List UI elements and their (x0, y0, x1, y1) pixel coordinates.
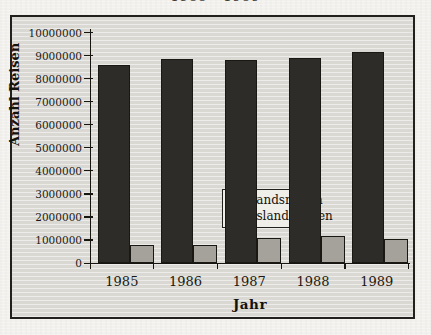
bar-inlandsreisen-1987 (225, 60, 257, 263)
y-tick-label: 2000000 (24, 212, 82, 222)
y-tick-label: 6000000 (24, 120, 82, 130)
x-category-label: 1986 (154, 274, 218, 289)
bar-auslandsreisen-1987 (257, 238, 281, 263)
y-tick (84, 263, 93, 264)
y-tick-label: 7000000 (24, 97, 82, 107)
x-tick (90, 263, 91, 269)
y-tick (84, 239, 93, 240)
bar-auslandsreisen-1989 (384, 239, 408, 263)
x-category-label: 1987 (217, 274, 281, 289)
bar-inlandsreisen-1988 (289, 58, 321, 263)
y-axis-line (90, 29, 91, 265)
bar-auslandsreisen-1986 (193, 245, 217, 263)
y-tick-label: 0 (24, 258, 82, 268)
y-tick-label: 10000000 (24, 28, 82, 38)
scanned-chart-page: 1985 - 1989 Anzahl Reisen Jahr Inlandsre… (0, 0, 431, 335)
x-tick (281, 263, 282, 269)
x-tick (344, 263, 345, 269)
bar-inlandsreisen-1989 (352, 52, 384, 263)
x-axis-line (90, 263, 410, 264)
y-tick-label: 8000000 (24, 74, 82, 84)
bar-inlandsreisen-1986 (161, 59, 193, 263)
x-tick (153, 263, 154, 269)
y-tick-label: 3000000 (24, 189, 82, 199)
y-tick (84, 55, 93, 56)
y-tick (84, 147, 93, 148)
y-tick (84, 193, 93, 194)
y-tick-label: 1000000 (24, 235, 82, 245)
cropped-title: 1985 - 1989 (0, 0, 431, 4)
y-tick (84, 101, 93, 102)
y-tick-label: 9000000 (24, 51, 82, 61)
y-tick (84, 78, 93, 79)
bar-auslandsreisen-1988 (321, 236, 345, 263)
x-axis-title: Jahr (90, 296, 410, 312)
x-category-label: 1989 (345, 274, 409, 289)
x-tick (408, 263, 409, 269)
y-tick (84, 170, 93, 171)
x-tick (217, 263, 218, 269)
y-tick (84, 216, 93, 217)
y-tick (84, 124, 93, 125)
y-tick (84, 32, 93, 33)
bar-auslandsreisen-1985 (130, 245, 154, 263)
x-category-label: 1988 (281, 274, 345, 289)
x-category-label: 1985 (90, 274, 154, 289)
bar-inlandsreisen-1985 (98, 65, 130, 263)
y-tick-label: 4000000 (24, 166, 82, 176)
y-tick-label: 5000000 (24, 143, 82, 153)
